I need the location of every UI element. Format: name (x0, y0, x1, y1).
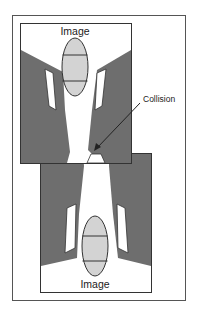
collision-label: Collision (143, 94, 175, 104)
bottom-left-fin (65, 204, 76, 253)
bottom-ellipse (82, 216, 108, 276)
top-ellipse (62, 38, 88, 96)
collision-diagram: Image Image Collision (0, 0, 197, 314)
bottom-image-label: Image (80, 278, 109, 290)
top-image: Image (21, 24, 132, 164)
top-image-label: Image (60, 25, 89, 37)
bottom-image: Image (41, 154, 152, 293)
